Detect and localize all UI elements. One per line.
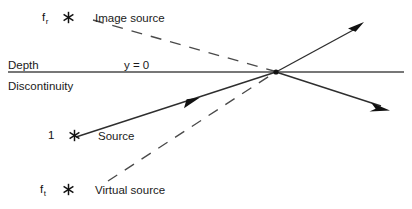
source-label: Source [98,131,134,143]
image-source-construction-line [93,20,274,71]
incident-amplitude-symbol: 1 [48,130,54,142]
depth-label: Depth [8,60,39,72]
discontinuity-label: Discontinuity [8,81,73,93]
incident-ray-line [76,72,276,137]
transmitted-ray-line [276,72,381,106]
interface-node-dot [273,69,278,74]
image-source-label: Image source [95,13,165,25]
reflection-coefficient-subscript: r [46,17,49,26]
reflection-coefficient-base: f [42,11,45,23]
ray-diagram-svg [0,0,412,209]
transmission-coefficient-base: f [40,183,43,195]
reflected-ray-arrowhead [348,22,364,36]
figure-canvas: fr 1 ft Image source Depth y = 0 Discont… [0,0,412,209]
source-asterisk-icon [68,129,81,142]
incident-ray-arrowhead [184,98,200,109]
virtual-source-label: Virtual source [95,185,165,197]
transmission-coefficient-subscript: t [44,189,46,198]
reflected-ray-line [276,28,357,72]
virtual-source-asterisk-icon [62,183,75,196]
transmitted-ray-arrowhead [370,103,391,112]
reflection-coefficient-symbol: fr [42,12,48,24]
virtual-source-construction-line [108,73,274,181]
y-equals-zero-label: y = 0 [124,60,149,72]
transmission-coefficient-symbol: ft [40,184,45,196]
image-source-asterisk-icon [62,11,75,24]
